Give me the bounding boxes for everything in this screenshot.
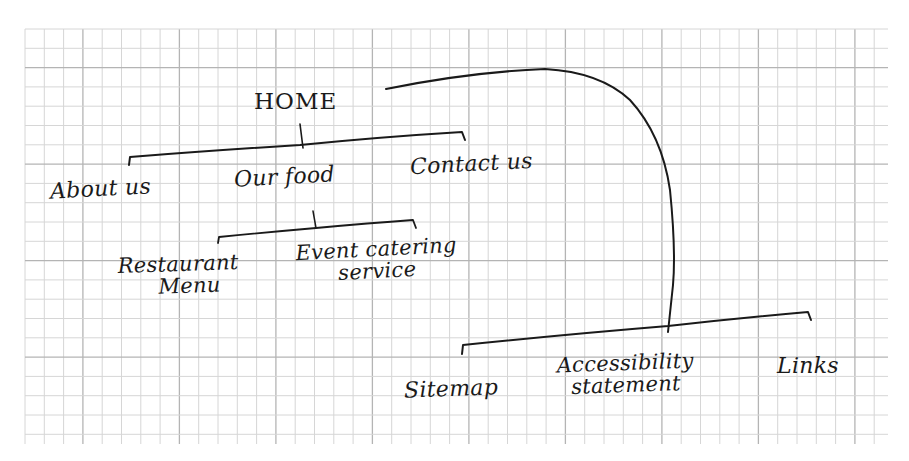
node-accessibility-line2: statement xyxy=(557,372,695,399)
node-home: HOME xyxy=(254,90,337,113)
node-about-us: About us xyxy=(49,175,151,202)
home-to-footer-curve xyxy=(386,69,674,332)
node-links: Links xyxy=(777,355,839,377)
node-sitemap: Sitemap xyxy=(404,376,499,401)
node-restaurant-menu: Restaurant Menu xyxy=(117,251,239,299)
node-our-food: Our food xyxy=(233,163,335,190)
connectors xyxy=(129,69,811,354)
node-event-catering: Event catering service xyxy=(295,234,458,286)
node-accessibility-statement: Accessibility statement xyxy=(556,350,695,399)
